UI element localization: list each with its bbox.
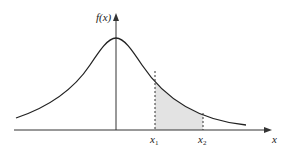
y-axis-label: f(x) bbox=[96, 11, 112, 24]
distribution-diagram: f(x) x1 x2 x bbox=[0, 0, 286, 152]
x1-label: x1 bbox=[149, 133, 159, 147]
shaded-area bbox=[16, 38, 246, 130]
x-axis-arrow-icon bbox=[264, 127, 272, 133]
x-axis-label: x bbox=[271, 133, 277, 145]
x2-label: x2 bbox=[197, 133, 207, 147]
y-axis-arrow-icon bbox=[113, 13, 119, 21]
density-curve bbox=[16, 38, 246, 125]
